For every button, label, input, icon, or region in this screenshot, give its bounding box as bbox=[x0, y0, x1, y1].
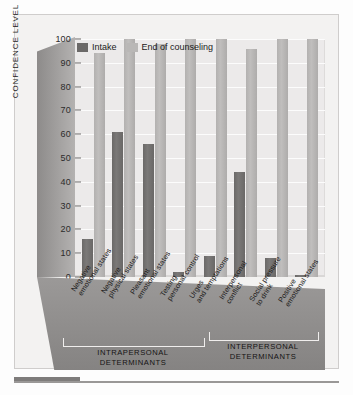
bar-intake bbox=[234, 172, 245, 277]
legend-swatch-end bbox=[127, 43, 138, 52]
bar-group bbox=[170, 39, 201, 277]
bar-series-container bbox=[75, 39, 325, 277]
legend-item: Intake bbox=[77, 42, 117, 52]
y-axis: 0102030405060708090100 bbox=[37, 39, 75, 277]
legend-swatch-intake bbox=[77, 43, 88, 52]
bar-end-of-counseling bbox=[185, 39, 196, 277]
scanned-page: 0102030405060708090100 CONFIDENCE LEVEL … bbox=[0, 0, 353, 395]
y-axis-tick-label: 90 bbox=[61, 58, 71, 68]
bar-group bbox=[78, 39, 109, 277]
y-axis-tick-label: 80 bbox=[61, 82, 71, 92]
y-axis-tick-label: 30 bbox=[61, 201, 71, 211]
y-axis-tick-label: 60 bbox=[61, 129, 71, 139]
chart-3d-base bbox=[37, 277, 325, 370]
bar-end-of-counseling bbox=[246, 49, 257, 277]
bar-intake bbox=[112, 132, 123, 277]
bar-end-of-counseling bbox=[94, 53, 105, 277]
bar-group bbox=[139, 39, 170, 277]
chart-figure: 0102030405060708090100 CONFIDENCE LEVEL … bbox=[14, 14, 339, 369]
bar-group bbox=[200, 39, 231, 277]
bar-group bbox=[109, 39, 140, 277]
bar-end-of-counseling bbox=[124, 39, 135, 277]
bar-group bbox=[231, 39, 262, 277]
legend-label: End of counseling bbox=[142, 42, 214, 52]
bar-group bbox=[261, 39, 292, 277]
y-axis-tick-label: 10 bbox=[61, 248, 71, 258]
bar-end-of-counseling bbox=[307, 39, 318, 277]
chart-legend: IntakeEnd of counseling bbox=[77, 39, 213, 55]
bar-group bbox=[292, 39, 323, 277]
caption-rule bbox=[14, 381, 339, 383]
bar-intake bbox=[143, 144, 154, 277]
y-axis-title: CONFIDENCE LEVEL bbox=[11, 0, 20, 111]
y-axis-tick-label: 70 bbox=[61, 105, 71, 115]
bar-end-of-counseling bbox=[216, 39, 227, 277]
y-axis-tick-label: 100 bbox=[55, 34, 71, 44]
bar-intake bbox=[173, 272, 184, 277]
y-axis-tick-label: 40 bbox=[61, 177, 71, 187]
y-axis-tick-label: 50 bbox=[61, 153, 71, 163]
legend-item: End of counseling bbox=[127, 42, 214, 52]
bar-intake bbox=[204, 256, 215, 277]
bar-intake bbox=[265, 258, 276, 277]
bar-end-of-counseling bbox=[277, 39, 288, 277]
y-axis-tick-label: 20 bbox=[61, 224, 71, 234]
bar-end-of-counseling bbox=[155, 44, 166, 277]
bar-intake bbox=[82, 239, 93, 277]
bar-intake bbox=[295, 275, 306, 277]
legend-label: Intake bbox=[92, 42, 117, 52]
